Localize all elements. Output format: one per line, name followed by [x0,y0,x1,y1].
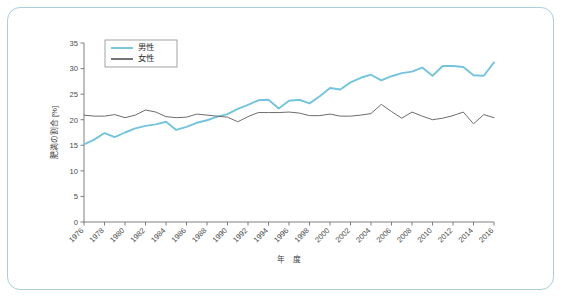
series-line-male [84,62,494,144]
x-tick-label: 2010 [416,226,434,244]
y-tick-label: 25 [70,90,78,99]
chart-root: 0510152025303519761978198019821984198619… [0,0,563,299]
y-tick-label: 0 [74,218,78,227]
y-axis-title: 肥満の割合 [%] [49,106,59,159]
x-tick-label: 2000 [313,226,331,244]
x-tick-label: 2002 [334,226,352,244]
x-tick-label: 1992 [231,226,249,244]
x-tick-label: 1998 [293,226,311,244]
x-tick-label: 1986 [170,226,188,244]
line-chart: 0510152025303519761978198019821984198619… [0,0,563,299]
legend-label-male: 男性 [138,42,154,52]
y-tick-label: 35 [70,39,78,48]
x-tick-label: 1982 [129,226,147,244]
x-tick-label: 2014 [457,226,475,244]
x-axis-title: 年 度 [277,254,301,264]
x-tick-label: 1988 [190,226,208,244]
x-tick-label: 1994 [252,226,270,244]
y-tick-label: 15 [70,141,78,150]
x-tick-label: 2006 [375,226,393,244]
x-tick-label: 2012 [436,226,454,244]
series-line-female [84,104,494,123]
legend-label-female: 女性 [138,53,154,63]
x-tick-label: 1990 [211,226,229,244]
x-tick-label: 1976 [67,226,85,244]
y-tick-label: 10 [70,167,78,176]
y-tick-label: 30 [70,64,78,73]
x-tick-label: 2004 [354,226,372,244]
x-tick-label: 2016 [477,226,495,244]
x-tick-label: 1984 [149,226,167,244]
x-tick-label: 1996 [272,226,290,244]
x-tick-label: 1980 [108,226,126,244]
y-tick-label: 5 [74,192,78,201]
x-tick-label: 1978 [88,226,106,244]
y-tick-label: 20 [70,116,78,125]
x-tick-label: 2008 [395,226,413,244]
